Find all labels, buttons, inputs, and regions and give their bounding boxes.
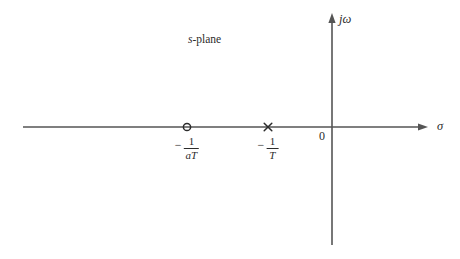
plane-label-roman: -plane	[192, 33, 221, 45]
zero-label-numerator: 1	[187, 136, 197, 148]
pole-tick-label: − 1 T	[258, 136, 279, 161]
plot-canvas	[0, 0, 460, 259]
zero-label-minus: −	[175, 139, 182, 151]
pole-label-fraction: 1 T	[266, 136, 278, 161]
zero-tick-label: − 1 aT	[175, 136, 199, 161]
imag-axis-label: jω	[339, 13, 351, 26]
zero-label-fraction: 1 aT	[184, 136, 200, 161]
pole-label-minus: −	[258, 139, 265, 151]
zero-label-denominator: aT	[184, 149, 200, 162]
origin-label: 0	[319, 130, 325, 142]
real-axis-arrowhead	[418, 123, 428, 130]
plane-label: s-plane	[188, 34, 221, 46]
real-axis-label: σ	[437, 120, 443, 133]
pole-label-denominator: T	[267, 149, 277, 162]
imag-axis-arrowhead	[328, 13, 335, 23]
s-plane-figure: s-plane jω σ 0 − 1 aT − 1 T	[0, 0, 460, 259]
pole-label-numerator: 1	[268, 136, 278, 148]
